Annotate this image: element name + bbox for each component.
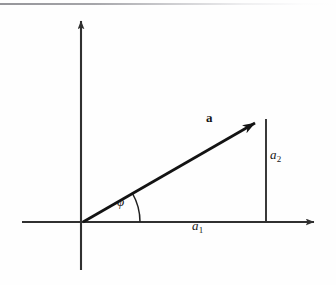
- component-a1-subscript: 1: [199, 225, 204, 235]
- angle-phi-label: φ: [117, 195, 124, 208]
- component-a1-label: a1: [192, 219, 203, 232]
- angle-arc: [133, 194, 141, 223]
- component-a2-base: a: [270, 147, 277, 162]
- component-a1-base: a: [192, 218, 199, 233]
- vector-a-label: a: [206, 111, 213, 124]
- vector-diagram-canvas: [0, 0, 336, 285]
- vector-a-arrow: [83, 123, 255, 222]
- component-a2-subscript: 2: [277, 154, 282, 164]
- component-a2-label: a2: [270, 148, 281, 161]
- vector-diagram-figure: a a2 a1 φ: [0, 0, 336, 285]
